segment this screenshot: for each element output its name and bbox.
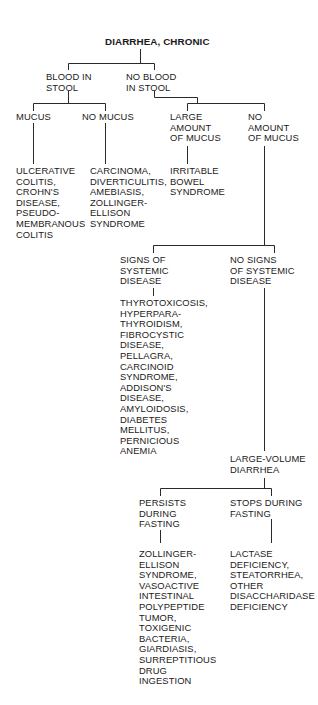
- node-signs-of-systemic-disease: SIGNS OF SYSTEMIC DISEASE: [120, 255, 169, 287]
- node-title: DIARRHEA, CHRONIC: [105, 37, 210, 48]
- node-large-volume-diarrhea: LARGE-VOLUME DIARRHEA: [230, 454, 306, 475]
- node-large-mucus-diagnoses: IRRITABLE BOWEL SYNDROME: [170, 166, 225, 198]
- node-stops-diagnoses: LACTASE DEFICIENCY, STEATORRHEA, OTHER D…: [230, 549, 315, 613]
- node-no-mucus: NO MUCUS: [82, 112, 134, 123]
- node-persists-during-fasting: PERSISTS DURING FASTING: [139, 498, 186, 530]
- node-stops-during-fasting: STOPS DURING FASTING: [230, 498, 302, 519]
- node-no-signs-of-systemic-disease: NO SIGNS OF SYSTEMIC DISEASE: [230, 255, 295, 287]
- node-mucus-diagnoses: ULCERATIVE COLITIS, CROHN'S DISEASE, PSE…: [16, 166, 85, 240]
- root-node-diarrhea-chronic: DIARRHEA, CHRONIC: [105, 37, 210, 48]
- node-large-amount-of-mucus: LARGE AMOUNT OF MUCUS: [170, 112, 221, 144]
- node-no-blood-in-stool: NO BLOOD IN STOOL: [126, 72, 176, 93]
- node-systemic-diagnoses: THYROTOXICOSIS, HYPERPARA- THYROIDISM, F…: [120, 298, 208, 457]
- node-no-amount-of-mucus: NO AMOUNT OF MUCUS: [248, 112, 299, 144]
- node-mucus: MUCUS: [16, 112, 51, 123]
- node-no-mucus-diagnoses: CARCINOMA, DIVERTICULITIS, AMEBIASIS, ZO…: [90, 166, 167, 230]
- node-blood-in-stool: BLOOD IN STOOL: [46, 72, 92, 93]
- node-persists-diagnoses: ZOLLINGER- ELLISON SYNDROME, VASOACTIVE …: [139, 549, 216, 687]
